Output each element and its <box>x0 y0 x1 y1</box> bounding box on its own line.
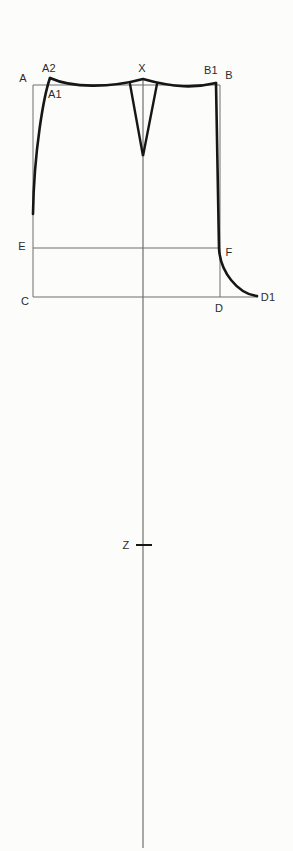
point-label-d1: D1 <box>261 292 275 303</box>
pattern-drawing <box>0 0 293 851</box>
point-label-z: Z <box>123 540 130 551</box>
pattern-diagram: A A2 A1 X B1 B E F C D D1 Z <box>0 0 293 851</box>
point-label-c: C <box>21 296 29 307</box>
point-label-x: X <box>138 63 146 74</box>
point-label-b: B <box>225 70 233 81</box>
construction-rectangle <box>33 85 220 297</box>
point-label-f: F <box>226 247 233 258</box>
point-label-a1: A1 <box>48 89 62 100</box>
point-label-a: A <box>19 73 27 84</box>
side-seam-line <box>216 83 257 296</box>
point-label-e: E <box>18 241 26 252</box>
point-label-d: D <box>215 303 223 314</box>
point-label-a2: A2 <box>42 63 56 74</box>
point-label-b1: B1 <box>204 65 218 76</box>
